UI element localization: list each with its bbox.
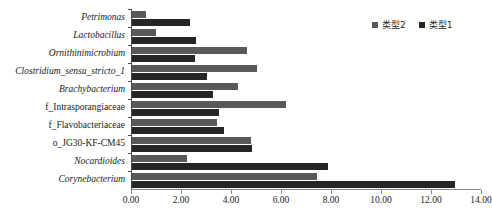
bar-group <box>131 45 480 63</box>
category-label: o_JG30-KF-CM45 <box>0 135 128 153</box>
x-axis-tick-label: 4.00 <box>223 195 240 205</box>
bar <box>131 55 195 62</box>
x-axis-tick <box>131 190 132 194</box>
bar-slot <box>131 109 480 116</box>
bar <box>131 119 217 126</box>
bar-slot <box>131 137 480 144</box>
bar-slot <box>131 11 480 18</box>
bar <box>131 11 146 18</box>
x-axis-tick <box>231 190 232 194</box>
category-label: f_Flavobacteriaceae <box>0 117 128 135</box>
x-axis-tick <box>281 190 282 194</box>
legend-item[interactable]: 类型1 <box>419 18 453 31</box>
bar <box>131 137 251 144</box>
x-axis-tick-label: 6.00 <box>273 195 290 205</box>
x-axis-tick-labels: 0.002.004.006.008.0010.0012.0014.00 <box>131 195 481 211</box>
x-axis-tick <box>181 190 182 194</box>
x-axis-tick-label: 12.00 <box>420 195 441 205</box>
bar-slot <box>131 155 480 162</box>
bar-slot <box>131 173 480 180</box>
bar-slot <box>131 127 480 134</box>
x-axis-tick <box>331 190 332 194</box>
category-label: Petrimonas <box>0 9 128 27</box>
bar-group <box>131 99 480 117</box>
bar-group <box>131 81 480 99</box>
bar <box>131 37 196 44</box>
legend-item[interactable]: 类型2 <box>372 18 406 31</box>
x-axis-tick <box>431 190 432 194</box>
bar <box>131 109 219 116</box>
bar-slot <box>131 55 480 62</box>
x-axis-tick-label: 0.00 <box>123 195 140 205</box>
bar <box>131 83 238 90</box>
bar-slot <box>131 91 480 98</box>
x-axis-tick-label: 14.00 <box>470 195 491 205</box>
bar <box>131 65 257 72</box>
category-label: Clostridium_sensu_stricto_1 <box>0 63 128 81</box>
bar <box>131 47 247 54</box>
bar-group <box>131 135 480 153</box>
x-axis-tick-label: 10.00 <box>370 195 391 205</box>
chart-legend: 类型2类型1 <box>372 18 452 31</box>
bar <box>131 163 328 170</box>
bar-group <box>131 63 480 81</box>
category-axis-labels: PetrimonasLactobacillusOrnithinimicrobiu… <box>0 9 128 189</box>
x-axis-tick-label: 2.00 <box>173 195 190 205</box>
bar-slot <box>131 73 480 80</box>
bar <box>131 173 317 180</box>
bar-slot <box>131 145 480 152</box>
bar <box>131 91 213 98</box>
bar <box>131 101 286 108</box>
bar <box>131 181 455 188</box>
bar-slot <box>131 47 480 54</box>
y-axis-line <box>131 9 132 190</box>
x-axis-tick-label: 8.00 <box>323 195 340 205</box>
x-axis-tick <box>481 190 482 194</box>
bar-slot <box>131 83 480 90</box>
bar <box>131 29 156 36</box>
legend-swatch-icon <box>372 22 378 28</box>
x-axis-tick <box>381 190 382 194</box>
bar-group <box>131 153 480 171</box>
bar-slot <box>131 119 480 126</box>
bar-slot <box>131 101 480 108</box>
bar-rows <box>131 9 480 189</box>
bar <box>131 19 190 26</box>
bar-slot <box>131 163 480 170</box>
category-label: f_Intrasporangiaceae <box>0 99 128 117</box>
bar <box>131 73 207 80</box>
bar <box>131 145 252 152</box>
bar-group <box>131 171 480 189</box>
bar-slot <box>131 65 480 72</box>
bar <box>131 155 187 162</box>
legend-label: 类型2 <box>382 18 406 31</box>
bar-slot <box>131 181 480 188</box>
category-label: Ornithinimicrobium <box>0 45 128 63</box>
category-label: Nocardioides <box>0 153 128 171</box>
bar-group <box>131 117 480 135</box>
plot-area <box>131 9 480 189</box>
bar <box>131 127 224 134</box>
bar-slot <box>131 37 480 44</box>
legend-label: 类型1 <box>429 18 453 31</box>
category-label: Brachybacterium <box>0 81 128 99</box>
category-label: Corynebacterium <box>0 171 128 189</box>
category-label: Lactobacillus <box>0 27 128 45</box>
legend-swatch-icon <box>419 22 425 28</box>
